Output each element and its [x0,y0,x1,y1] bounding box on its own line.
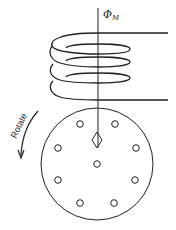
pointer-diamond [92,132,102,148]
diagram-canvas: ΦM Rotate [0,0,176,230]
coil [50,33,168,100]
rotating-disk [41,108,153,220]
rotate-label: Rotate [9,112,29,140]
disk-holes [55,121,140,207]
flux-label: ΦM [103,8,120,22]
